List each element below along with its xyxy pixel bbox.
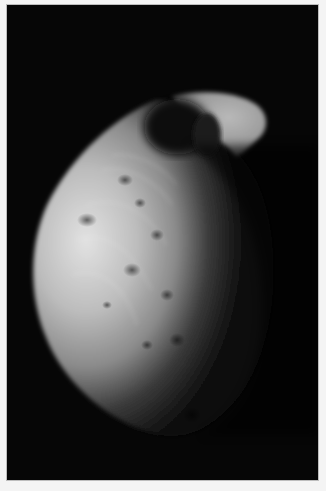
photograph: Grayscale photograph of Phobos, the irre… [7, 5, 318, 480]
phobos-moon-illustration [7, 5, 318, 480]
